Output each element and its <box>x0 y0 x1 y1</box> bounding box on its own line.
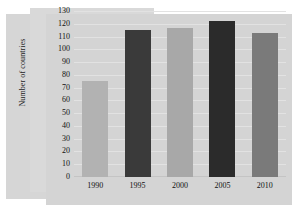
y-axis-tick-labels: 0102030405060708090100110120130 <box>34 0 70 219</box>
bar-chart: Number of countries 01020304050607080901… <box>0 0 298 219</box>
y-axis-title: Number of countries <box>18 13 27 133</box>
x-tick-label-2000: 2000 <box>172 181 188 191</box>
y-tick-label: 90 <box>34 58 70 66</box>
y-tick-label: 20 <box>34 147 70 155</box>
bar-1995[interactable] <box>125 30 151 177</box>
bar-slot <box>159 11 201 177</box>
y-tick-label: 80 <box>34 71 70 79</box>
plot-area <box>74 11 286 177</box>
bar-1990[interactable] <box>82 81 108 177</box>
bar-slot <box>74 11 116 177</box>
x-axis-tick-labels: 19901995200020052010 <box>74 181 286 197</box>
y-tick-label: 0 <box>34 173 70 181</box>
y-tick-label: 110 <box>34 33 70 41</box>
x-tick-label-1990: 1990 <box>87 181 103 191</box>
y-tick-label: 10 <box>34 160 70 168</box>
y-tick-label: 130 <box>34 7 70 15</box>
bar-slot <box>244 11 286 177</box>
bar-slot <box>201 11 243 177</box>
bar-2000[interactable] <box>167 28 193 177</box>
y-tick-label: 70 <box>34 84 70 92</box>
x-tick-label-1995: 1995 <box>130 181 146 191</box>
y-tick-label: 50 <box>34 109 70 117</box>
y-tick-label: 60 <box>34 96 70 104</box>
y-tick-label: 30 <box>34 135 70 143</box>
x-tick-label-2010: 2010 <box>257 181 273 191</box>
bar-2005[interactable] <box>209 21 235 177</box>
bar-2010[interactable] <box>252 33 278 177</box>
y-tick-label: 120 <box>34 20 70 28</box>
y-tick-label: 100 <box>34 45 70 53</box>
y-tick-label: 40 <box>34 122 70 130</box>
x-tick-label-2005: 2005 <box>214 181 230 191</box>
bar-slot <box>116 11 158 177</box>
